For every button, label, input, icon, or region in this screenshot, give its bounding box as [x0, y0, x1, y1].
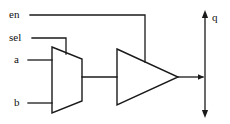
input-a-label: a — [14, 53, 19, 65]
enable-label: en — [9, 8, 20, 20]
tristate-buffer-body — [117, 49, 178, 105]
multiplexer-body — [52, 47, 82, 113]
output-q-label: q — [212, 11, 218, 23]
schematic-canvas: en sel a b q — [0, 0, 230, 124]
buffer-output-arrowhead — [198, 74, 204, 80]
select-wire — [32, 38, 66, 54]
select-label: sel — [9, 31, 21, 43]
input-b-label: b — [14, 96, 20, 108]
q-down-arrowhead — [202, 110, 208, 118]
q-up-arrowhead — [202, 10, 208, 18]
schematic-diagram: en sel a b q — [0, 0, 230, 124]
